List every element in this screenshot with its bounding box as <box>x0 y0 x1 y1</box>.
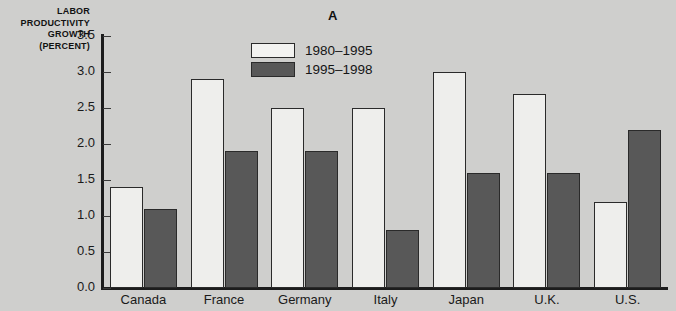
x-axis-label-u-s-: U.S. <box>587 292 668 307</box>
bar-u-s--1980-1995 <box>594 202 627 288</box>
plot-area <box>103 36 668 288</box>
bar-japan-1995-1998 <box>467 173 500 288</box>
y-tick-label: 0.5 <box>55 243 95 258</box>
bar-u-k--1995-1998 <box>547 173 580 288</box>
bar-germany-1980-1995 <box>271 108 304 288</box>
bar-canada-1980-1995 <box>110 187 143 288</box>
x-axis-label-italy: Italy <box>345 292 426 307</box>
x-axis-label-japan: Japan <box>426 292 507 307</box>
x-axis-label-canada: Canada <box>103 292 184 307</box>
bar-canada-1995-1998 <box>144 209 177 288</box>
bar-japan-1980-1995 <box>433 72 466 288</box>
y-tick-label: 0.0 <box>55 279 95 294</box>
y-tick-label: 1.0 <box>55 207 95 222</box>
legend-item-1: 1995–1998 <box>251 61 373 78</box>
legend-item-0: 1980–1995 <box>251 42 373 59</box>
legend-label-1: 1995–1998 <box>305 62 373 77</box>
bar-italy-1980-1995 <box>352 108 385 288</box>
legend-swatch-light-icon <box>251 43 295 58</box>
bar-chart: LABOR PRODUCTIVITY GROWTH (PERCENT) A 0.… <box>0 0 676 311</box>
bar-u-k--1980-1995 <box>513 94 546 288</box>
x-axis-label-u-k-: U.K. <box>507 292 588 307</box>
bar-france-1995-1998 <box>225 151 258 288</box>
y-axis-title-line-4: (PERCENT) <box>0 41 90 53</box>
legend-label-0: 1980–1995 <box>305 43 373 58</box>
y-tick-label: 3.0 <box>55 63 95 78</box>
legend-swatch-dark-icon <box>251 62 295 77</box>
x-axis-label-germany: Germany <box>264 292 345 307</box>
y-tick-label: 2.5 <box>55 99 95 114</box>
panel-title: A <box>328 8 337 23</box>
chart-legend: 1980–1995 1995–1998 <box>251 42 373 80</box>
bar-france-1980-1995 <box>191 79 224 288</box>
bar-italy-1995-1998 <box>386 230 419 288</box>
y-tick-label: 3.5 <box>55 27 95 42</box>
y-tick-label: 2.0 <box>55 135 95 150</box>
y-axis-title-line-1: LABOR <box>0 6 90 18</box>
y-tick-label: 1.5 <box>55 171 95 186</box>
x-axis-label-france: France <box>184 292 265 307</box>
bar-germany-1995-1998 <box>305 151 338 288</box>
bar-u-s--1995-1998 <box>628 130 661 288</box>
